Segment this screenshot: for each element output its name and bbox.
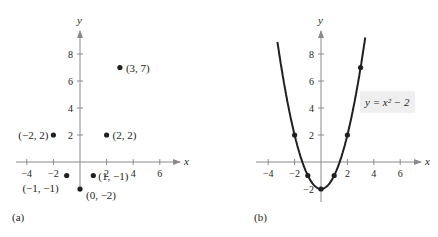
point-label: (1, −1) <box>98 170 128 183</box>
data-point <box>64 173 69 178</box>
y-tick-label: 6 <box>309 76 314 87</box>
y-tick-label: 6 <box>68 76 73 87</box>
x-axis-label: x <box>183 155 189 167</box>
data-point <box>332 173 337 178</box>
point-label: (2, 2) <box>113 129 137 142</box>
point-label: (−2, 2) <box>18 129 48 142</box>
data-point <box>305 173 310 178</box>
x-tick-label: −2 <box>48 168 59 179</box>
data-point <box>91 173 96 178</box>
point-label: (−1, −1) <box>22 182 59 195</box>
x-tick-label: −4 <box>21 168 32 179</box>
data-point <box>117 65 122 70</box>
point-label: (0, −2) <box>86 189 116 202</box>
data-points: (−2, 2)(−1, −1)(0, −2)(1, −1)(2, 2)(3, 7… <box>18 62 150 203</box>
panel-label-a: (a) <box>12 211 25 224</box>
y-tick-label: 2 <box>68 130 73 141</box>
function-plot-b: −4−2246 −22468 x y y = x² − 2 (b) <box>254 14 430 224</box>
x-tick-label: 6 <box>398 168 403 179</box>
x-tick-label: 6 <box>157 168 162 179</box>
data-point <box>345 132 350 137</box>
x-tick-label: 2 <box>345 168 350 179</box>
x-axis-label: x <box>424 155 430 167</box>
data-point <box>104 132 109 137</box>
y-tick-label: 8 <box>68 49 73 60</box>
y-tick-label: 2 <box>309 130 314 141</box>
equation-label: y = x² − 2 <box>364 96 410 108</box>
x-tick-label: −4 <box>263 168 274 179</box>
x-tick-label: 4 <box>371 168 376 179</box>
y-tick-label: 4 <box>309 103 314 114</box>
x-tick-label: −2 <box>289 168 300 179</box>
panel-label-b: (b) <box>254 211 267 224</box>
scatter-plot-a: −4−2246 2468 x y (−2, 2)(−1, −1)(0, −2)(… <box>12 14 189 224</box>
point-label: (3, 7) <box>126 62 150 75</box>
y-tick-label: 8 <box>309 49 314 60</box>
data-point <box>358 65 363 70</box>
data-point <box>51 132 56 137</box>
data-point <box>292 132 297 137</box>
data-points <box>292 65 363 192</box>
y-axis-label: y <box>76 14 82 26</box>
data-point <box>77 186 82 191</box>
y-axis-label: y <box>317 14 323 26</box>
data-point <box>318 186 323 191</box>
y-ticks: 2468 <box>68 49 83 141</box>
figure: −4−2246 2468 x y (−2, 2)(−1, −1)(0, −2)(… <box>0 0 438 237</box>
y-tick-label: 4 <box>68 103 73 114</box>
x-tick-label: 4 <box>131 168 136 179</box>
y-tick-label: −2 <box>303 184 314 195</box>
